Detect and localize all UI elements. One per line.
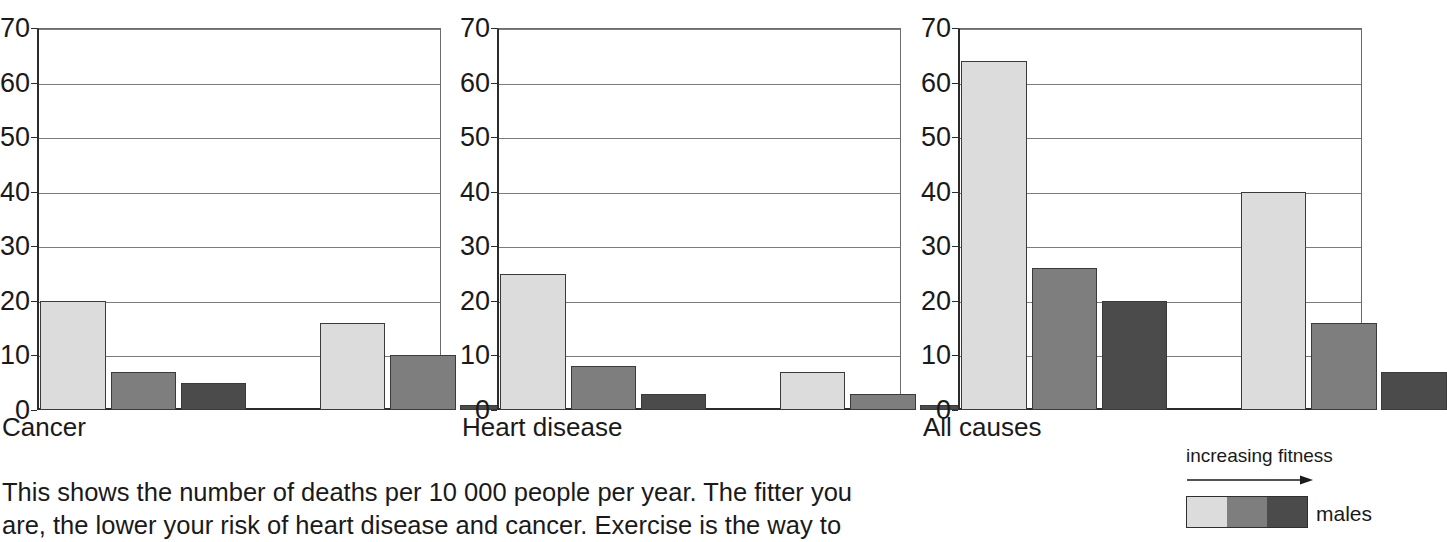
bar: [390, 355, 455, 410]
y-axis-tick-label: 60: [460, 69, 490, 96]
y-axis-tick-label: 60: [0, 69, 30, 96]
y-axis-tick-mark: [952, 192, 958, 193]
y-axis-tick-label: 50: [460, 124, 490, 151]
y-axis-tick-mark: [31, 137, 37, 138]
legend-series-label: males: [1316, 503, 1372, 524]
y-axis-tick-mark: [491, 137, 497, 138]
caption-line-1: This shows the number of deaths per 10 0…: [2, 476, 782, 509]
y-axis-tick-mark: [952, 355, 958, 356]
y-axis-tick-label: 60: [921, 69, 951, 96]
legend-swatch-low-fitness: [1187, 497, 1227, 527]
chart-panel-heart-disease: 010203040506070 Heart disease: [460, 0, 920, 450]
y-axis-tick-mark: [31, 192, 37, 193]
legend-title: increasing fitness: [1186, 446, 1333, 465]
y-axis-tick-mark: [491, 301, 497, 302]
bar: [320, 323, 385, 410]
legend: increasing fitness males: [1186, 446, 1382, 532]
y-axis-tick-label: 70: [921, 15, 951, 42]
bar: [780, 372, 845, 410]
y-axis-tick-label: 40: [921, 178, 951, 205]
bar: [40, 301, 105, 410]
y-axis-tick-label: 10: [0, 342, 30, 369]
y-axis-tick-mark: [952, 137, 958, 138]
caption-line-2: are, the lower your risk of heart diseas…: [2, 509, 782, 542]
plot-wrap: 010203040506070: [958, 28, 1362, 410]
y-axis-tick-mark: [31, 246, 37, 247]
gridline: [39, 247, 440, 248]
y-axis-tick-label: 70: [460, 15, 490, 42]
bar: [500, 274, 565, 410]
plot-wrap: 010203040506070: [497, 28, 901, 410]
bar: [1032, 268, 1097, 410]
y-axis-tick-label: 50: [921, 124, 951, 151]
bar: [181, 383, 246, 410]
legend-swatch-bar: [1186, 496, 1308, 528]
y-axis-tick-mark: [952, 410, 958, 411]
y-axis-tick-mark: [952, 301, 958, 302]
y-axis-tick-mark: [31, 301, 37, 302]
y-axis-tick-label: 40: [0, 178, 30, 205]
y-axis-tick-mark: [952, 83, 958, 84]
y-axis-tick-mark: [952, 28, 958, 29]
bar: [1311, 323, 1376, 410]
y-axis-tick-label: 30: [921, 233, 951, 260]
y-axis-tick-mark: [491, 410, 497, 411]
y-axis-tick-label: 20: [0, 287, 30, 314]
y-axis-tick-label: 10: [460, 342, 490, 369]
bar: [641, 394, 706, 410]
gridline: [499, 29, 900, 30]
legend-swatch-high-fitness: [1267, 497, 1307, 527]
y-axis-tick-label: 30: [460, 233, 490, 260]
gridline: [39, 29, 440, 30]
bar: [850, 394, 915, 410]
plot-wrap: 010203040506070: [37, 28, 441, 410]
bar: [1102, 301, 1167, 410]
y-axis-tick-label: 30: [0, 233, 30, 260]
gridline: [39, 193, 440, 194]
y-axis-tick-label: 20: [921, 287, 951, 314]
bar: [571, 366, 636, 410]
y-axis-tick-mark: [31, 410, 37, 411]
y-axis-tick-label: 20: [460, 287, 490, 314]
gridline: [960, 29, 1361, 30]
gridline: [39, 138, 440, 139]
arrow-right-icon: [1187, 474, 1313, 486]
bar: [961, 61, 1026, 410]
panel-label-cancer: Cancer: [2, 414, 86, 440]
gridline: [39, 84, 440, 85]
panel-label-heart-disease: Heart disease: [462, 414, 622, 440]
y-axis-tick-mark: [31, 83, 37, 84]
y-axis-tick-label: 10: [921, 342, 951, 369]
gridline: [499, 247, 900, 248]
y-axis-tick-mark: [31, 355, 37, 356]
y-axis-tick-mark: [491, 355, 497, 356]
y-axis-tick-label: 50: [0, 124, 30, 151]
gridline: [499, 138, 900, 139]
gridline: [499, 84, 900, 85]
chart-panel-all-causes: 010203040506070 All causes: [921, 0, 1381, 450]
bar: [1241, 192, 1306, 410]
y-axis-tick-mark: [491, 246, 497, 247]
y-axis-tick-label: 70: [0, 15, 30, 42]
y-axis-tick-mark: [491, 28, 497, 29]
legend-swatch-medium-fitness: [1227, 497, 1267, 527]
chart-panel-cancer: 010203040506070 Cancer: [0, 0, 460, 450]
bar: [111, 372, 176, 410]
y-axis-tick-mark: [952, 246, 958, 247]
gridline: [499, 193, 900, 194]
y-axis-tick-label: 40: [460, 178, 490, 205]
bar: [1381, 372, 1446, 410]
y-axis-tick-mark: [31, 28, 37, 29]
caption: This shows the number of deaths per 10 0…: [2, 476, 782, 542]
y-axis-tick-mark: [491, 83, 497, 84]
panel-label-all-causes: All causes: [923, 414, 1042, 440]
y-axis-tick-mark: [491, 192, 497, 193]
